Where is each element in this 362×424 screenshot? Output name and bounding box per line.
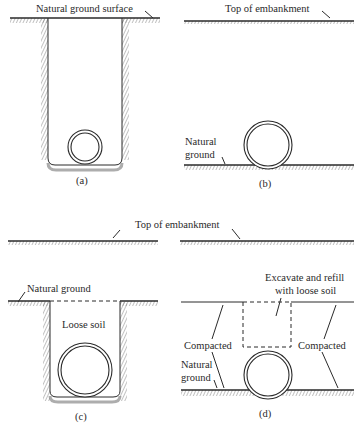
trench-wall-hatch (41, 18, 48, 160)
pipe-installation-diagram: Natural ground surface (a) Top of embank… (0, 0, 362, 424)
trench-wall-hatch (122, 18, 129, 160)
label-excavate-refill-2: with loose soil (275, 285, 336, 296)
label-compacted-right: Compacted (298, 340, 347, 351)
leader-line (113, 230, 120, 238)
label-top-of-embankment-shared: Top of embankment (135, 219, 219, 230)
pipe-inner (61, 346, 109, 394)
leader-line (145, 11, 153, 18)
label-natural: Natural (185, 136, 217, 147)
leader-line (322, 352, 338, 388)
panel-d: Excavate and refill with loose soil Comp… (181, 272, 354, 420)
leader-line (222, 157, 225, 164)
leader-line (322, 11, 330, 18)
label-loose-soil: Loose soil (62, 319, 106, 330)
caption-d: (d) (259, 408, 272, 420)
caption-c: (c) (75, 411, 87, 423)
caption-b: (b) (259, 178, 272, 190)
leader-line (324, 305, 336, 339)
panel-c: Natural ground Loose soil (c) (8, 283, 158, 423)
label-top-of-embankment: Top of embankment (225, 3, 309, 14)
label-ground: ground (185, 149, 215, 160)
excavation-dashed-box (243, 302, 291, 347)
panel-a: Natural ground surface (a) (10, 3, 160, 187)
label-compacted-left: Compacted (184, 340, 233, 351)
label-natural: Natural (181, 359, 213, 370)
leader-line (212, 305, 223, 339)
label-excavate-refill-1: Excavate and refill (265, 272, 344, 283)
leader-line (276, 298, 281, 316)
pipe-inner (247, 354, 289, 396)
pipe-inner (71, 133, 99, 161)
trench-wall-hatch (43, 301, 50, 401)
panel-b: Top of embankment Natural ground (b) (184, 3, 354, 190)
label-ground: ground (181, 372, 211, 383)
leader-line (212, 352, 224, 388)
leader-line (214, 380, 217, 388)
caption-a: (a) (76, 175, 88, 187)
pipe-inner (247, 124, 289, 166)
trench-wall-hatch (120, 301, 127, 401)
leader-line (232, 229, 240, 239)
label-natural-ground-surface: Natural ground surface (36, 3, 133, 14)
shared-embankment: Top of embankment (8, 219, 354, 245)
label-natural-ground: Natural ground (27, 283, 92, 294)
